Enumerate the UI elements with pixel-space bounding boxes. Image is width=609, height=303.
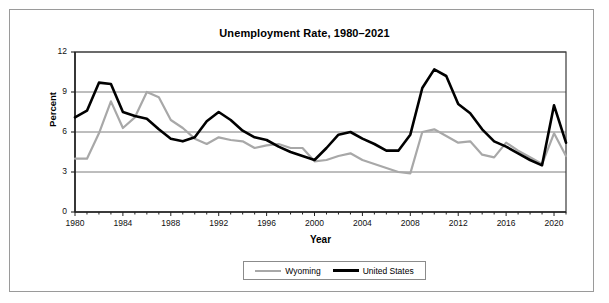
chart-figure: Unemployment Rate, 1980–2021 Percent 036… <box>0 0 609 303</box>
legend-label-united-states: United States <box>363 266 414 276</box>
x-tick-label: 2004 <box>342 218 382 228</box>
legend-swatch-wyoming <box>255 270 281 272</box>
series-line-united-states <box>75 69 566 165</box>
y-tick-label: 0 <box>45 206 67 216</box>
y-tick-label: 9 <box>45 86 67 96</box>
series-line-wyoming <box>75 92 566 173</box>
y-tick-label: 12 <box>45 46 67 56</box>
x-tick-label: 1984 <box>103 218 143 228</box>
x-axis-label: Year <box>75 234 566 245</box>
legend-label-wyoming: Wyoming <box>285 266 320 276</box>
x-tick-label: 2008 <box>390 218 430 228</box>
x-tick-label: 2012 <box>438 218 478 228</box>
x-tick-label: 1988 <box>151 218 191 228</box>
y-tick-label: 6 <box>45 126 67 136</box>
x-tick-label: 2016 <box>486 218 526 228</box>
x-tick-label: 2020 <box>534 218 574 228</box>
chart-svg <box>0 0 609 303</box>
legend-item-united-states: United States <box>333 266 414 276</box>
legend-swatch-united-states <box>333 269 359 272</box>
x-tick-label: 1980 <box>55 218 95 228</box>
plot-area <box>0 0 609 303</box>
x-tick-label: 1996 <box>247 218 287 228</box>
chart-legend: Wyoming United States <box>243 261 426 280</box>
legend-item-wyoming: Wyoming <box>255 266 320 276</box>
x-tick-label: 1992 <box>199 218 239 228</box>
y-tick-label: 3 <box>45 166 67 176</box>
x-tick-label: 2000 <box>295 218 335 228</box>
